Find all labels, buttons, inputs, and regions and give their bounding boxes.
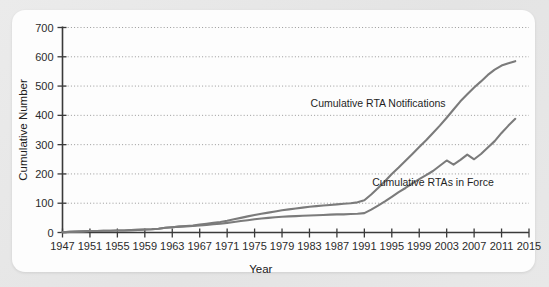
x-tick-label: 1999 [407,240,431,252]
x-tick-label: 1991 [352,240,376,252]
x-tick-label: 1955 [105,240,129,252]
x-tick-label: 1967 [187,240,211,252]
x-tick-label: 1995 [380,240,404,252]
x-tick-label: 1983 [297,240,321,252]
x-tick-label: 1963 [160,240,184,252]
x-tick-label: 1947 [50,240,74,252]
x-tick-label: 2015 [517,240,541,252]
y-tick-label: 500 [35,80,53,92]
line-chart: 0100200300400500600700194719511955195919… [0,0,549,287]
x-axis-title: Year [249,263,272,275]
y-tick-label: 200 [35,168,53,180]
series-line-rta-notifications [63,61,516,232]
y-tick-label: 400 [35,109,53,121]
x-tick-label: 1971 [215,240,239,252]
axes-group [63,27,530,233]
x-tick-label: 1951 [78,240,102,252]
screenshot-root: 0100200300400500600700194719511955195919… [0,0,549,287]
y-tick-label: 600 [35,51,53,63]
y-axis-title: Cumulative Number [17,79,29,181]
x-tick-label: 1987 [325,240,349,252]
x-tick-label: 2007 [462,240,486,252]
y-tick-label: 0 [47,227,53,239]
x-tick-label: 1959 [133,240,157,252]
y-tick-label: 300 [35,139,53,151]
x-tick-label: 1979 [270,240,294,252]
series-annotations: Cumulative RTA NotificationsCumulative R… [311,97,494,188]
series-label-rta-notifications: Cumulative RTA Notifications [311,97,446,109]
x-tick-label: 2011 [490,240,514,252]
series-label-rtas-in-force: Cumulative RTAs in Force [372,176,494,188]
series-group [63,61,516,232]
y-tick-label: 700 [35,22,53,34]
y-tick-label: 100 [35,197,53,209]
x-tick-label: 2003 [434,240,458,252]
x-tick-label: 1975 [242,240,266,252]
